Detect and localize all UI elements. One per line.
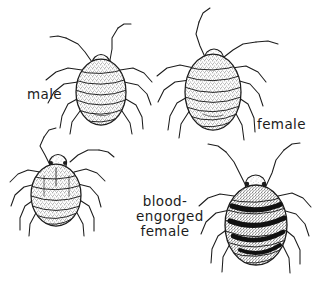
label-engorged-line-2: engorged — [136, 209, 194, 224]
unlabeled-abdomen — [30, 164, 82, 226]
label-male: male — [27, 87, 62, 102]
bedbug-figure: male female blood- engorged female — [0, 0, 318, 289]
label-engorged-line-3: female — [136, 224, 194, 239]
bedbug-illustration-svg — [0, 0, 318, 289]
unlabeled-eye-right — [63, 161, 67, 165]
label-blood-engorged-female: blood- engorged female — [136, 194, 194, 239]
label-female: female — [257, 117, 306, 132]
label-engorged-line-1: blood- — [136, 194, 194, 209]
